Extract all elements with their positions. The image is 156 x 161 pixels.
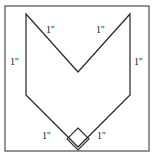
dimension-label-bottom-right: 1''	[97, 131, 106, 141]
dimension-label-top-left: 1''	[46, 25, 55, 35]
geometry-figure: 1'' 1'' 1'' 1'' 1'' 1''	[0, 0, 156, 161]
dimension-label-left-side: 1''	[10, 57, 19, 67]
dimension-label-top-right: 1''	[96, 25, 105, 35]
figure-canvas	[0, 0, 156, 161]
dimension-label-right-side: 1''	[134, 57, 143, 67]
dimension-label-bottom-left: 1''	[42, 131, 51, 141]
chevron-hexagon-shape	[26, 14, 130, 147]
